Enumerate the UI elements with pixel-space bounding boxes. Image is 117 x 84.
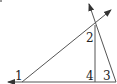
geometry-diagram: 1 2 4 3 xyxy=(0,0,117,84)
diagonal-line xyxy=(22,10,111,82)
angle-2-label: 2 xyxy=(86,31,94,45)
corner-mark xyxy=(0,0,2,2)
angle-4-label: 4 xyxy=(86,69,94,83)
angle-1-label: 1 xyxy=(15,69,23,83)
angle-3-label: 3 xyxy=(103,69,111,83)
